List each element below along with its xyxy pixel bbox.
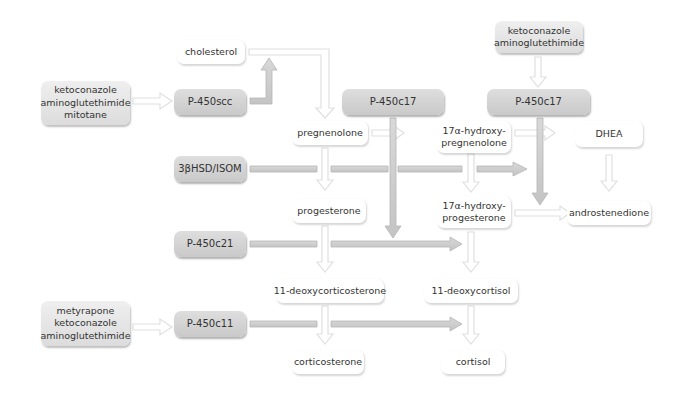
- steroid-corticosterone: corticosterone: [292, 350, 364, 374]
- enzyme-p450c21: P-450c21: [174, 231, 246, 257]
- steroid-androstenedione: androstenedione: [567, 201, 651, 225]
- enzyme-p450c17-a: P-450c17: [342, 89, 444, 115]
- arrow-c11: [331, 317, 462, 331]
- inhibitor-label: aminoglutethimide: [494, 37, 584, 50]
- inhibitor-label: ketoconazole: [508, 25, 571, 38]
- steroid-progesterone: progesterone: [292, 199, 366, 223]
- steroid-label: 17α-hydroxy-: [442, 200, 505, 213]
- arrow-prog-doc: [317, 226, 333, 272]
- steroid-17oh-progesterone: 17α-hydroxy- progesterone: [437, 196, 511, 228]
- inhibitor-label: ketoconazole: [54, 84, 117, 97]
- arrow-3bhsd: [477, 162, 527, 176]
- arrow-17ohpreg-dhea: [515, 126, 555, 140]
- steroid-cholesterol: cholesterol: [177, 40, 245, 64]
- enzyme-p450c17-b: P-450c17: [487, 89, 590, 115]
- steroid-11-deoxycortisol: 11-deoxycortisol: [424, 279, 518, 303]
- steroid-label: progesterone: [442, 212, 505, 225]
- inhibitor-label: ketoconazole: [54, 317, 117, 330]
- arrow-dhea-andro: [601, 155, 617, 191]
- inhibitor-label: metyrapone: [57, 305, 115, 318]
- arrow-inhibitor-scc: [133, 93, 172, 109]
- steroid-label: pregnenolone: [441, 137, 507, 150]
- inhibitor-label: aminoglutethimide: [41, 97, 131, 110]
- inhibitor-label: aminoglutethimide: [41, 330, 131, 343]
- enzyme-3bhsd-isom: 3βHSD/ISOM: [174, 156, 246, 182]
- inhibitor-box-scc: ketoconazole aminoglutethimide mitotane: [41, 81, 130, 125]
- steroidogenesis-diagram: ketoconazole aminoglutethimide mitotane …: [0, 0, 673, 399]
- steroid-17oh-pregnenolone: 17α-hydroxy- pregnenolone: [437, 121, 511, 153]
- arrow-17ohpreg-17ohprog: [463, 154, 479, 192]
- inhibitor-box-c11: metyrapone ketoconazole aminoglutethimid…: [41, 301, 130, 346]
- arrow-scc: [250, 58, 277, 104]
- steroid-pregnenolone: pregnenolone: [292, 121, 368, 145]
- arrow-c21: [331, 237, 462, 251]
- arrow-inhibitor-c17: [530, 57, 546, 87]
- arrow-17ohprog-deoxycortisol: [463, 232, 479, 272]
- steroid-label: 17α-hydroxy-: [442, 125, 505, 138]
- inhibitor-label: mitotane: [64, 109, 107, 122]
- steroid-dhea: DHEA: [575, 121, 643, 147]
- steroid-11-deoxycorticosterone: 11-deoxycorticosterone: [276, 279, 384, 303]
- enzyme-p450scc: P-450scc: [174, 89, 246, 115]
- arrow-preg-17ohpreg: [372, 126, 404, 140]
- enzyme-p450c11: P-450c11: [174, 311, 246, 337]
- arrow-17ohprog-andro: [515, 206, 570, 220]
- arrow-cholesterol-pregnenolone: [249, 49, 334, 118]
- arrow-inhibitor-c11: [133, 319, 172, 335]
- arrow-deoxycortisol-cortisol: [463, 306, 479, 344]
- steroid-cortisol: cortisol: [441, 350, 505, 374]
- inhibitor-box-c17: ketoconazole aminoglutethimide: [495, 21, 583, 53]
